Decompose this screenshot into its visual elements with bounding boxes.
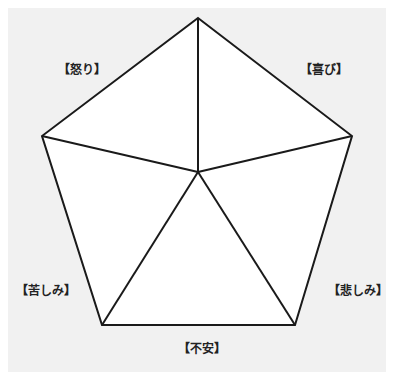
label-joy: 【喜び】 xyxy=(300,60,348,77)
pentagon-diagram xyxy=(0,0,398,383)
label-sadness: 【悲しみ】 xyxy=(328,281,388,298)
label-anxiety: 【不安】 xyxy=(178,339,226,356)
label-anger: 【怒り】 xyxy=(58,60,106,77)
label-suffering: 【苦しみ】 xyxy=(16,281,76,298)
